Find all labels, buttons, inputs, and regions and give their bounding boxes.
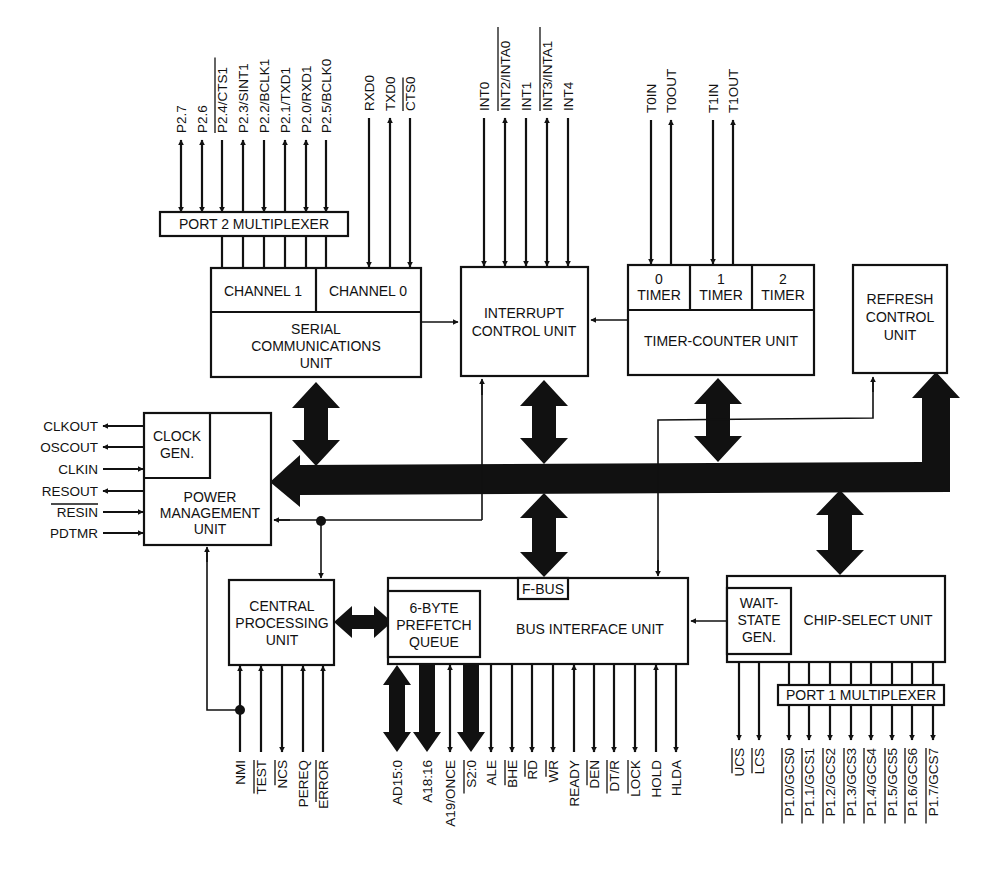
wait-state-label-2: STATE	[737, 612, 780, 628]
cpu-label-2: PROCESSING	[235, 615, 328, 631]
chip-select-unit-label: CHIP-SELECT UNIT	[804, 612, 933, 628]
pin-p2-2-bclk1: P2.2/BCLK1	[257, 59, 272, 212]
pin-resin: RESIN	[51, 504, 143, 520]
pin-p2-0-rxd1: P2.0/RXD1	[299, 65, 314, 212]
pin-label: P1.4/GCS4	[864, 748, 879, 817]
pin-label: P1.5/GCS5	[885, 748, 900, 816]
pin-int3-inta1: INT3/INTA1	[540, 27, 555, 266]
pin-hold: HOLD	[649, 665, 664, 798]
pin-p2-3-sint1: P2.3/SINT1	[236, 63, 251, 212]
pin-label: WR	[546, 760, 561, 783]
pin-label: P2.4/CTS1	[215, 67, 230, 133]
pin-label: P2.7	[174, 105, 189, 133]
pin-clkout: CLKOUT	[43, 419, 143, 434]
pin-label: LCS	[752, 748, 767, 774]
timer-counter-unit: 0 TIMER 1 TIMER 2 TIMER TIMER-COUNTER UN…	[628, 265, 814, 375]
timer2-label: TIMER	[761, 287, 805, 303]
pin-label: READY	[567, 760, 582, 807]
pin-p2-7: P2.7	[174, 105, 189, 212]
timer0-label: TIMER	[637, 287, 681, 303]
pin-nmi: NMI	[233, 666, 248, 785]
pin-a19-once: A19/ONCE	[443, 665, 458, 827]
pin-int4: INT4	[561, 81, 576, 266]
pin-test: TEST	[254, 666, 269, 795]
pin-label: NCS	[275, 760, 290, 789]
serial-unit-label-3: UNIT	[300, 355, 333, 371]
pin-p1-1-gcs1: P1.1/GCS1	[802, 706, 817, 824]
pin-t1in: T1IN	[706, 84, 721, 264]
pin-label: TXD0	[383, 76, 398, 111]
power-management-unit: CLOCK GEN. POWER MANAGEMENT UNIT	[144, 413, 271, 545]
pin-label: INT4	[561, 81, 576, 111]
pin-label: PEREQ	[296, 760, 311, 807]
pin-label: RXD0	[362, 75, 377, 111]
pin-label: UCS	[732, 748, 747, 777]
interrupt-unit-label-2: CONTROL UNIT	[472, 323, 577, 339]
clock-gen-label-2: GEN.	[160, 445, 194, 461]
power-label-3: UNIT	[194, 521, 227, 537]
pin-p1-6-gcs6: P1.6/GCS6	[905, 706, 920, 824]
pin-label: ERROR	[316, 760, 331, 809]
port1-multiplexer-label: PORT 1 MULTIPLEXER	[786, 687, 936, 703]
pin-label: CLKOUT	[43, 419, 98, 434]
serial0-pins: RXD0TXD0CTS0	[362, 75, 418, 267]
pin-label: P1.7/GCS7	[926, 748, 941, 816]
pin-ale: ALE	[484, 665, 499, 786]
interrupt-unit-label-1: INTERRUPT	[484, 305, 565, 321]
pin-label: HLDA	[669, 760, 684, 796]
pin-label: NMI	[233, 760, 248, 785]
pin-label: TEST	[254, 760, 269, 795]
pin-label: P1.6/GCS6	[905, 748, 920, 816]
port2-pins: P2.7P2.6P2.4/CTS1P2.3/SINT1P2.2/BCLK1P2.…	[174, 57, 334, 212]
central-processing-unit: CENTRAL PROCESSING UNIT	[229, 580, 334, 665]
chipselect-to-mux-wires	[789, 662, 933, 685]
serial-communications-unit: CHANNEL 1 CHANNEL 0 SERIAL COMMUNICATION…	[211, 268, 421, 377]
pin-hlda: HLDA	[669, 665, 684, 796]
pin-p2-4-cts1: P2.4/CTS1	[215, 57, 230, 212]
pin-label: CLKIN	[58, 462, 98, 477]
pin-label: LOCK	[628, 760, 643, 797]
internal-bus	[270, 372, 960, 507]
pin-label: INT3/INTA1	[540, 41, 555, 111]
pin-cts0: CTS0	[403, 76, 418, 267]
chip-select-unit: WAIT- STATE GEN. CHIP-SELECT UNIT	[727, 576, 945, 662]
bus-pins: AD15:0A18:16A19/ONCES2:0ALEBHERDWRREADYD…	[383, 665, 684, 827]
pin-rxd0: RXD0	[362, 75, 377, 267]
pin-label: P2.6	[195, 105, 210, 133]
power-label-1: POWER	[184, 489, 237, 505]
refresh-unit-label-1: REFRESH	[867, 291, 934, 307]
biu-label: BUS INTERFACE UNIT	[516, 621, 664, 637]
timer1-label: TIMER	[699, 287, 743, 303]
timer1-number: 1	[717, 271, 725, 287]
pin-wr: WR	[546, 665, 561, 783]
pin-p1-4-gcs4: P1.4/GCS4	[864, 706, 879, 824]
pin-p1-2-gcs2: P1.2/GCS2	[823, 706, 838, 824]
pin-t1out: T1OUT	[726, 69, 741, 264]
pin-p1-5-gcs5: P1.5/GCS5	[885, 706, 900, 824]
pin-lock: LOCK	[628, 665, 643, 797]
pin-t0out: T0OUT	[664, 69, 679, 264]
prefetch-label-1: 6-BYTE	[409, 600, 458, 616]
pin-ncs: NCS	[275, 666, 290, 789]
timer-pins: T0INT0OUTT1INT1OUT	[644, 69, 741, 264]
wide-bus-arrow-icon	[383, 665, 411, 752]
pin-int2-inta0: INT2/INTA0	[498, 27, 513, 266]
pin-p2-6: P2.6	[195, 105, 210, 212]
cpu-label-3: UNIT	[266, 632, 299, 648]
channel0-label: CHANNEL 0	[329, 283, 407, 299]
timer0-number: 0	[655, 271, 663, 287]
pin-label: P2.3/SINT1	[236, 63, 251, 133]
refresh-unit-label-2: CONTROL	[866, 309, 935, 325]
pin-label: P1.2/GCS2	[823, 748, 838, 816]
pin-p1-3-gcs3: P1.3/GCS3	[844, 706, 859, 824]
channel1-label: CHANNEL 1	[224, 283, 302, 299]
pin-label: OSCOUT	[40, 440, 98, 455]
refresh-control-unit: REFRESH CONTROL UNIT	[853, 265, 947, 373]
cpu-pins: NMITESTNCSPEREQERROR	[233, 666, 331, 809]
pin-clkin: CLKIN	[58, 462, 143, 477]
pin-label: DEN	[587, 760, 602, 789]
pin-pdtmr: PDTMR	[50, 526, 143, 541]
refresh-unit-label-3: UNIT	[884, 327, 917, 343]
cpu-label-1: CENTRAL	[249, 598, 315, 614]
pin-bhe: BHE	[505, 665, 520, 788]
